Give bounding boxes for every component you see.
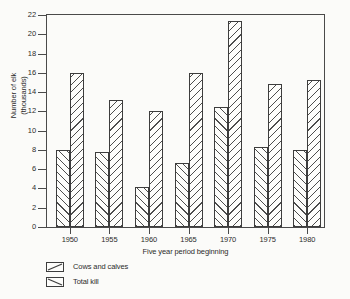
legend-swatch-forward-slash-icon bbox=[46, 262, 64, 272]
y-axis-tick bbox=[38, 227, 46, 228]
legend-swatch-back-slash-icon bbox=[46, 277, 64, 287]
legend-item-total-kill: Total kill bbox=[46, 274, 226, 289]
bar-1975-cows-and-calves bbox=[254, 147, 268, 227]
y-axis-tick-label: 10 bbox=[12, 127, 36, 135]
y-axis-tick-label: 20 bbox=[12, 30, 36, 38]
y-axis-tick bbox=[38, 34, 46, 35]
y-axis-tick-label: 8 bbox=[12, 146, 36, 154]
bar-1980-total-kill bbox=[307, 80, 321, 227]
bar-1975-total-kill bbox=[268, 84, 282, 227]
legend-label-total-kill: Total kill bbox=[73, 277, 99, 286]
y-axis-tick bbox=[38, 15, 46, 16]
x-axis-tick bbox=[307, 228, 308, 234]
bar-1965-total-kill bbox=[189, 73, 203, 227]
y-axis-tick-label: 6 bbox=[12, 165, 36, 173]
x-axis-tick bbox=[149, 228, 150, 234]
chart-legend: Cows and calves Total kill bbox=[46, 259, 226, 289]
figure-page: Number of elk (thousands) 02468101214161… bbox=[0, 0, 350, 299]
y-axis-tick bbox=[38, 131, 46, 132]
bar-1960-total-kill bbox=[149, 111, 163, 227]
y-axis-tick-label: 4 bbox=[12, 184, 36, 192]
bar-1955-total-kill bbox=[109, 100, 123, 227]
x-axis-tick-label: 1965 bbox=[169, 236, 209, 244]
y-axis-tick bbox=[38, 73, 46, 74]
bars-area bbox=[47, 15, 324, 227]
x-axis-tick-label: 1960 bbox=[129, 236, 169, 244]
x-axis-tick bbox=[268, 228, 269, 234]
bar-1950-total-kill bbox=[70, 73, 84, 227]
y-axis-tick-label: 18 bbox=[12, 50, 36, 58]
x-axis-tick-label: 1950 bbox=[50, 236, 90, 244]
bar-1970-cows-and-calves bbox=[214, 107, 228, 227]
y-axis-tick-label: 14 bbox=[12, 88, 36, 96]
x-axis-tick-label: 1975 bbox=[248, 236, 288, 244]
x-axis-label: Five year period beginning bbox=[46, 247, 325, 256]
y-axis-tick-label: 22 bbox=[12, 11, 36, 19]
y-axis-tick bbox=[38, 54, 46, 55]
x-axis-tick bbox=[189, 228, 190, 234]
x-axis-tick-label: 1970 bbox=[208, 236, 248, 244]
bar-1955-cows-and-calves bbox=[95, 152, 109, 227]
bar-chart: Number of elk (thousands) 02468101214161… bbox=[0, 0, 350, 299]
x-axis-tick bbox=[109, 228, 110, 234]
y-axis-tick bbox=[38, 150, 46, 151]
x-axis-tick bbox=[70, 228, 71, 234]
y-axis-tick bbox=[38, 208, 46, 209]
x-axis-tick-label: 1980 bbox=[287, 236, 327, 244]
y-axis-tick bbox=[38, 92, 46, 93]
x-axis-tick bbox=[228, 228, 229, 234]
y-axis-tick-label: 16 bbox=[12, 69, 36, 77]
y-axis-tick bbox=[38, 111, 46, 112]
bar-1960-cows-and-calves bbox=[135, 187, 149, 227]
bar-1965-cows-and-calves bbox=[175, 163, 189, 227]
y-axis-tick bbox=[38, 188, 46, 189]
y-axis-tick bbox=[38, 169, 46, 170]
y-axis-tick-label: 0 bbox=[12, 223, 36, 231]
bar-1950-cows-and-calves bbox=[56, 150, 70, 227]
y-axis-tick-label: 12 bbox=[12, 107, 36, 115]
legend-item-cows-and-calves: Cows and calves bbox=[46, 259, 226, 274]
bar-1980-cows-and-calves bbox=[293, 150, 307, 227]
bar-1970-total-kill bbox=[228, 21, 242, 227]
y-axis-tick-label: 2 bbox=[12, 204, 36, 212]
x-axis-tick-label: 1955 bbox=[89, 236, 129, 244]
legend-label-cows-and-calves: Cows and calves bbox=[73, 262, 128, 271]
